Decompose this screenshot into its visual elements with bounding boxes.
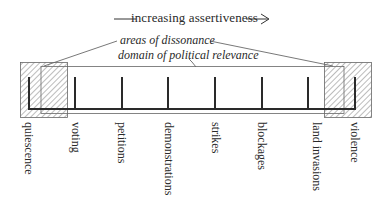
scale-label-blockages: blockages xyxy=(256,122,268,170)
areas-of-dissonance-label: areas of dissonance xyxy=(120,33,215,48)
domain-of-political-relevance-label: domain of political relevance xyxy=(118,48,259,63)
scale-label-voting: voting xyxy=(70,122,82,153)
scale-label-land-invasions: land invasions xyxy=(297,122,323,202)
domain-of-political-relevance-box xyxy=(41,67,344,114)
title: increasing assertiveness xyxy=(0,10,389,26)
assertiveness-diagram xyxy=(0,0,389,211)
scale-label-violence: violence xyxy=(349,122,361,163)
scale-label-petitions: petitions xyxy=(116,122,128,163)
assertiveness-scale xyxy=(28,77,356,110)
scale-label-strikes: strikes xyxy=(210,122,222,153)
scale-label-quiescence: quiescence xyxy=(23,122,35,175)
scale-label-demonstrations: demonstrations xyxy=(163,122,175,195)
